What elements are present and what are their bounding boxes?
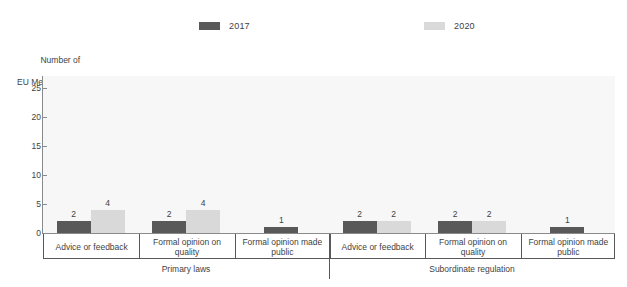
bar-2017-cat1[interactable] (152, 221, 186, 233)
bar-value-label: 1 (550, 215, 584, 225)
bar-value-label: 4 (186, 198, 220, 208)
category-label: Formal opinion made public (235, 234, 330, 259)
bar-value-label: 4 (91, 198, 125, 208)
bar-2017-cat0[interactable] (57, 221, 91, 233)
y-tick-label: 20 (21, 112, 41, 122)
legend-swatch-2017 (199, 22, 220, 30)
category-divider (425, 234, 426, 259)
category-divider (139, 234, 140, 259)
legend-label-2020: 2020 (454, 21, 475, 31)
bar-chart: 2017 2020 Number of EU Member States 051… (0, 0, 627, 287)
bar-2017-cat5[interactable] (550, 227, 584, 233)
category-divider (235, 234, 236, 259)
legend-label-2017: 2017 (229, 21, 250, 31)
bar-value-label: 2 (343, 209, 377, 219)
bar-value-label: 2 (377, 209, 411, 219)
category-label: Formal opinion made public (521, 234, 616, 259)
section-divider (329, 234, 330, 279)
y-axis-title-line1: Number of (40, 55, 80, 65)
bar-value-label: 2 (152, 209, 186, 219)
category-label: Advice or feedback (330, 234, 425, 259)
legend-entry-2017[interactable]: 2017 (199, 18, 250, 34)
legend-swatch-2020 (424, 22, 445, 30)
bar-value-label: 1 (264, 215, 298, 225)
category-label: Advice or feedback (44, 234, 139, 259)
category-divider (521, 234, 522, 259)
bar-value-label: 2 (57, 209, 91, 219)
section-label: Subordinate regulation (329, 259, 615, 279)
y-tick-label: 0 (21, 228, 41, 238)
bar-2020-cat0[interactable] (91, 210, 125, 233)
bar-2017-cat4[interactable] (438, 221, 472, 233)
bar-value-label: 2 (472, 209, 506, 219)
category-label: Formal opinion on quality (139, 234, 234, 259)
category-label: Formal opinion on quality (425, 234, 520, 259)
bars-layer: 2424122221 (43, 76, 615, 233)
category-divider (330, 234, 331, 259)
section-label: Primary laws (43, 259, 329, 279)
bar-value-label: 2 (438, 209, 472, 219)
y-tick-label: 15 (21, 141, 41, 151)
y-tick-label: 10 (21, 170, 41, 180)
bar-2020-cat4[interactable] (472, 221, 506, 233)
section-label-band: Primary lawsSubordinate regulation (43, 259, 615, 279)
chart-legend: 2017 2020 (0, 18, 627, 34)
bar-2020-cat3[interactable] (377, 221, 411, 233)
bar-2017-cat3[interactable] (343, 221, 377, 233)
bar-2020-cat1[interactable] (186, 210, 220, 233)
y-tick-label: 5 (21, 199, 41, 209)
y-tick-label: 25 (21, 83, 41, 93)
bar-2017-cat2[interactable] (264, 227, 298, 233)
legend-entry-2020[interactable]: 2020 (424, 18, 475, 34)
